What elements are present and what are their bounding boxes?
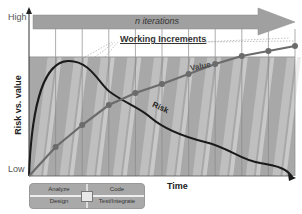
value-point — [265, 48, 271, 54]
value-point — [53, 144, 59, 150]
legend-design: Design — [34, 198, 84, 204]
value-point — [239, 53, 245, 59]
value-point — [79, 122, 85, 128]
increment-connector — [105, 42, 118, 57]
activity-legend: Analyze Code Design Test/Integrate — [29, 183, 145, 209]
y-axis-arrow-icon — [26, 7, 32, 14]
legend-code: Code — [92, 186, 142, 192]
legend-test-integrate: Test/Integrate — [92, 198, 142, 204]
cycle-icon — [81, 191, 93, 202]
value-point — [212, 61, 218, 67]
value-point — [159, 81, 165, 87]
legend-analyze: Analyze — [34, 186, 84, 192]
value-point — [132, 90, 138, 96]
working-increments-label: Working Increments — [120, 34, 206, 44]
y-axis-title: Risk vs. value — [13, 65, 23, 145]
x-axis-title: Time — [167, 181, 188, 191]
banner-label: n iterations — [135, 16, 179, 26]
value-point — [292, 43, 298, 49]
y-low-label: Low — [8, 164, 25, 174]
y-high-label: High — [8, 12, 27, 22]
value-point — [106, 102, 112, 108]
